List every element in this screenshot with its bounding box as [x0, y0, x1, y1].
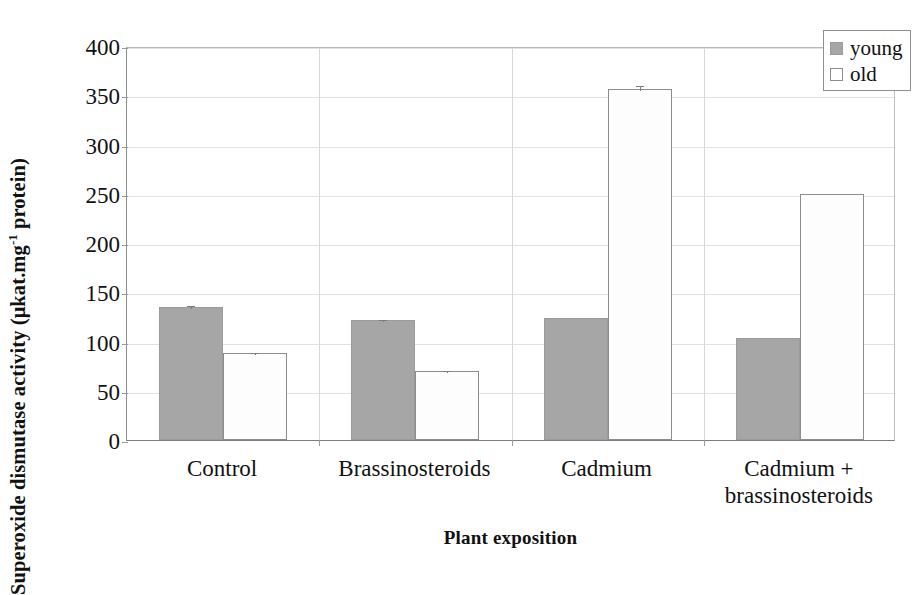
x-axis-category-label-line: Cadmium + [703, 455, 895, 482]
x-axis-tick-mark [704, 440, 705, 446]
gridline [127, 48, 894, 49]
y-axis-tick-label: 250 [42, 183, 120, 206]
y-axis-tick-mark [122, 294, 128, 295]
y-axis-tick-label: 200 [42, 233, 120, 256]
x-axis-category-label: Cadmium [511, 455, 703, 482]
y-axis-tick-label: 300 [42, 134, 120, 157]
x-axis-category-label-line: Control [126, 455, 318, 482]
y-axis-tick-mark [122, 48, 128, 49]
y-axis-tick-mark [122, 196, 128, 197]
y-axis-title-text-a: Superoxide dismutase activity (μkat.mg [7, 245, 29, 595]
error-bar-cap [251, 353, 259, 354]
legend-item-old: old [830, 61, 905, 87]
y-axis-tick-mark [122, 97, 128, 98]
error-bar-cap [379, 320, 387, 321]
y-axis-tick-mark [122, 245, 128, 246]
category-separator [512, 48, 513, 440]
legend-label-young: young [850, 38, 903, 59]
y-axis-title: Superoxide dismutase activity (μkat.mg-1… [0, 0, 36, 563]
error-bar-cap [187, 306, 195, 307]
legend-item-young: young [830, 35, 905, 61]
chart-legend: youngold [823, 30, 911, 91]
error-bar-cap [443, 371, 451, 372]
legend-swatch-old [830, 68, 843, 81]
gridline [127, 97, 894, 98]
category-separator [319, 48, 320, 440]
x-axis-category-label-line: brassinosteroids [703, 482, 895, 509]
chart-plot-area [126, 47, 895, 441]
gridline [127, 294, 894, 295]
x-axis-category-label-line: Cadmium [511, 455, 703, 482]
bar-old-3 [608, 89, 672, 440]
y-axis-tick-label: 400 [42, 36, 120, 59]
y-axis-tick-mark [122, 442, 128, 443]
x-axis-tick-mark [512, 440, 513, 446]
y-axis-tick-mark [122, 344, 128, 345]
bar-old-1 [223, 353, 287, 440]
y-axis-title-superscript: -1 [6, 234, 20, 245]
y-axis-tick-label: 150 [42, 282, 120, 305]
y-axis-title-text-b: protein) [7, 158, 29, 234]
x-axis-category-labels: ControlBrassinosteroidsCadmiumCadmium +b… [126, 455, 895, 517]
gridline [127, 147, 894, 148]
x-axis-title: Plant exposition [126, 527, 895, 549]
bar-old-4 [800, 194, 864, 440]
bar-young-2 [351, 320, 415, 440]
x-axis-tick-mark [319, 440, 320, 446]
x-axis-category-label: Brassinosteroids [318, 455, 510, 482]
y-axis-tick-labels: 050100150200250300350400 [40, 0, 120, 563]
bar-young-4 [736, 338, 800, 440]
legend-label-old: old [850, 64, 877, 85]
y-axis-tick-mark [122, 147, 128, 148]
y-axis-tick-label: 0 [42, 430, 120, 453]
x-axis-category-label: Cadmium +brassinosteroids [703, 455, 895, 509]
y-axis-tick-mark [122, 393, 128, 394]
error-bar-cap [636, 86, 644, 87]
gridline [127, 245, 894, 246]
x-axis-category-label: Control [126, 455, 318, 482]
y-axis-tick-label: 100 [42, 331, 120, 354]
gridline [127, 196, 894, 197]
bar-young-3 [544, 318, 608, 440]
legend-swatch-young [830, 42, 843, 55]
x-axis-category-label-line: Brassinosteroids [318, 455, 510, 482]
category-separator [704, 48, 705, 440]
y-axis-tick-label: 50 [42, 380, 120, 403]
y-axis-tick-label: 350 [42, 85, 120, 108]
bar-young-1 [159, 307, 223, 440]
bar-old-2 [415, 371, 479, 440]
